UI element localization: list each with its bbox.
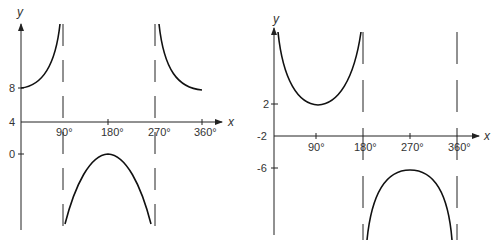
right-y-label-2: 2 (263, 98, 269, 110)
left-x-label-360: 360° (194, 126, 217, 138)
left-x-label-90: 90° (56, 126, 73, 138)
left-curve-branch-2 (65, 154, 151, 224)
right-curve-branch-2 (367, 170, 452, 240)
right-x-label-270: 270° (401, 141, 424, 153)
left-y-label-0: 0 (9, 148, 15, 160)
right-x-label-360: 360° (448, 141, 471, 153)
left-x-axis-label: x (227, 115, 235, 129)
right-curve-branch-1 (278, 32, 361, 105)
left-graph: y x 8 4 0 90° 180° 270° 360° (9, 5, 235, 230)
right-y-label-minus-2: -2 (257, 130, 267, 142)
right-x-label-90: 90° (308, 141, 325, 153)
right-x-axis-label: x (483, 129, 491, 143)
left-x-label-270: 270° (148, 126, 171, 138)
right-x-label-180: 180° (354, 141, 377, 153)
right-y-label-minus-6: -6 (257, 162, 267, 174)
left-y-label-8: 8 (9, 82, 15, 94)
left-y-axis-label: y (16, 5, 24, 19)
left-curve-branch-1 (21, 24, 60, 88)
left-x-label-180: 180° (101, 126, 124, 138)
right-graph: y x 2 -2 -6 90° 180° 270° 360° (257, 12, 491, 240)
left-y-label-4: 4 (9, 116, 15, 128)
left-curve-branch-3 (159, 24, 202, 90)
figure: y x 8 4 0 90° 180° 270° 360° y x 2 (0, 0, 497, 248)
right-y-axis-label: y (272, 12, 280, 26)
